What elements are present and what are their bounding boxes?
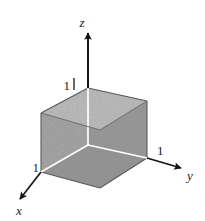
z-axis-label: z bbox=[78, 15, 84, 30]
unit-cube-axes-figure: z y x 1 1 1 bbox=[0, 0, 205, 221]
x-axis-label: x bbox=[15, 203, 22, 218]
y-tick-label: 1 bbox=[157, 143, 164, 158]
x-tick-label: 1 bbox=[33, 160, 40, 175]
y-axis-label: y bbox=[185, 168, 193, 183]
figure-root: z y x 1 1 1 bbox=[0, 0, 205, 221]
z-tick-label: 1 bbox=[64, 78, 71, 93]
